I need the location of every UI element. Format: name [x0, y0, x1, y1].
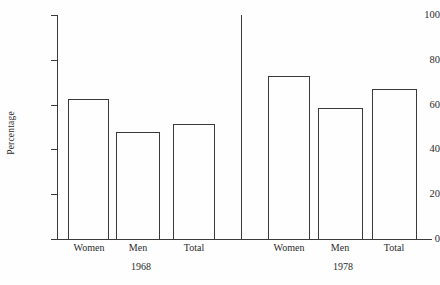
group-label-1978: 1978: [313, 261, 373, 272]
bar-men-1978: [318, 108, 363, 239]
y-axis-title: Percentage: [6, 95, 16, 171]
bar-women-1968: [68, 99, 109, 239]
y-tick-80: [51, 60, 58, 61]
x-label-women-1978: Women: [260, 242, 318, 253]
y-axis-line: [57, 15, 58, 239]
y-tick-60: [51, 105, 58, 106]
bar-men-1968: [116, 132, 160, 239]
y-tick-40: [51, 149, 58, 150]
chart-page: Percentage 100 80 60 40 20 0 Women Men T…: [0, 0, 440, 285]
x-label-total-1978: Total: [367, 242, 421, 253]
x-axis-line: [57, 239, 432, 240]
bar-total-1978: [372, 89, 417, 239]
x-label-men-1978: Men: [316, 242, 364, 253]
group-label-1968: 1968: [111, 261, 171, 272]
bar-total-1968: [173, 124, 215, 239]
x-label-women-1968: Women: [60, 242, 118, 253]
y-tick-label-80: 80: [396, 55, 440, 66]
bar-chart: Percentage 100 80 60 40 20 0 Women Men T…: [0, 0, 440, 285]
group-divider-line: [241, 15, 242, 240]
y-tick-label-100: 100: [396, 10, 440, 21]
bar-women-1978: [268, 76, 310, 239]
y-tick-20: [51, 194, 58, 195]
x-label-men-1968: Men: [114, 242, 162, 253]
x-label-total-1968: Total: [167, 242, 221, 253]
y-tick-100: [51, 15, 58, 16]
y-tick-0: [51, 239, 58, 240]
